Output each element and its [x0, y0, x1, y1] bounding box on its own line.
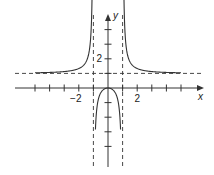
y-axis-arrow-icon — [105, 14, 111, 21]
right-branch-curve — [124, 0, 181, 73]
graph-canvas: −222xy — [0, 0, 214, 175]
y-axis-label: y — [112, 10, 119, 21]
x-axis-label: x — [197, 91, 204, 102]
axes — [15, 14, 204, 167]
y-tick-label: 2 — [96, 53, 102, 64]
x-tick-label: 2 — [134, 93, 140, 104]
left-branch-curve — [35, 0, 92, 73]
x-tick-label: −2 — [70, 93, 82, 104]
